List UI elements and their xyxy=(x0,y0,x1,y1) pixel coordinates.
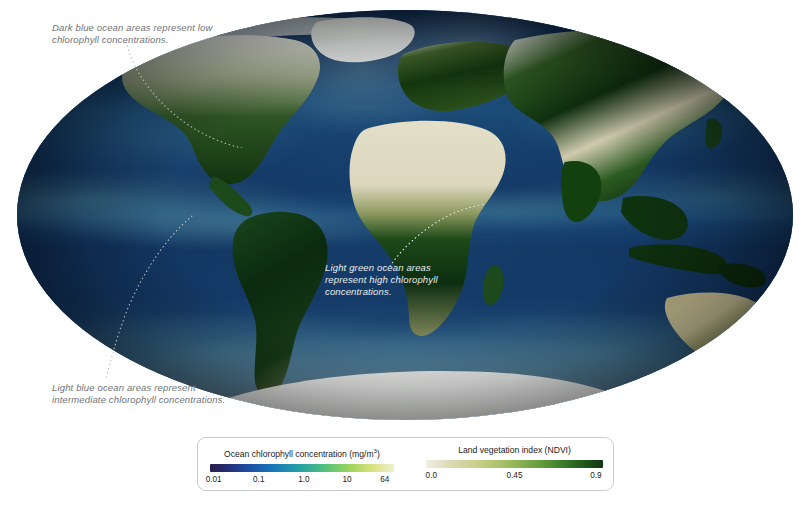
legend-ocean-title: Ocean chlorophyll concentration (mg/m3) xyxy=(210,445,394,460)
limb-shading xyxy=(17,10,793,420)
legend-panel: Ocean chlorophyll concentration (mg/m3) … xyxy=(197,437,614,491)
legend-land-tick-2: 0.9 xyxy=(590,471,601,480)
legend-land-vegetation: Land vegetation index (NDVI) 0.00.450.9 xyxy=(426,445,603,483)
annotation-intermediate-chlorophyll-line2: intermediate chlorophyll concentrations. xyxy=(52,394,252,406)
annotation-low-chlorophyll-line1: Dark blue ocean areas represent low xyxy=(52,22,242,34)
annotation-high-chlorophyll-line3: concentrations. xyxy=(325,286,465,298)
legend-ocean-tick-3: 10 xyxy=(343,475,352,484)
annotation-high-chlorophyll-line2: represent high chlorophyll xyxy=(325,274,465,286)
annotation-intermediate-chlorophyll-line1: Light blue ocean areas represent xyxy=(52,382,252,394)
legend-ocean-tick-1: 0.1 xyxy=(253,475,264,484)
legend-ocean-tick-0: 0.01 xyxy=(206,475,222,484)
legend-land-tick-0: 0.0 xyxy=(426,471,437,480)
legend-ocean-title-tail: ) xyxy=(377,449,380,459)
legend-ocean-ticks: 0.010.11.01064 xyxy=(210,475,394,487)
legend-ocean-title-main: Ocean chlorophyll concentration (mg/m xyxy=(224,449,374,459)
annotation-low-chlorophyll: Dark blue ocean areas represent low chlo… xyxy=(52,22,242,46)
legend-land-title: Land vegetation index (NDVI) xyxy=(426,445,603,456)
landmass-new-zealand xyxy=(783,344,793,368)
legend-land-colorbar xyxy=(426,460,603,468)
legend-ocean-tick-4: 64 xyxy=(380,475,389,484)
global-map-figure: Dark blue ocean areas represent low chlo… xyxy=(0,0,810,430)
legend-land-tick-1: 0.45 xyxy=(507,471,523,480)
legend-ocean-tick-2: 1.0 xyxy=(298,475,309,484)
annotation-low-chlorophyll-line2: chlorophyll concentrations. xyxy=(52,34,242,46)
globe-ellipse xyxy=(17,10,793,420)
legend-land-ticks: 0.00.450.9 xyxy=(426,471,603,483)
legend-ocean-chlorophyll: Ocean chlorophyll concentration (mg/m3) … xyxy=(210,445,394,487)
legend-ocean-colorbar xyxy=(210,464,394,472)
annotation-high-chlorophyll: Light green ocean areas represent high c… xyxy=(325,262,465,298)
annotation-intermediate-chlorophyll: Light blue ocean areas represent interme… xyxy=(52,382,252,406)
annotation-high-chlorophyll-line1: Light green ocean areas xyxy=(325,262,465,274)
